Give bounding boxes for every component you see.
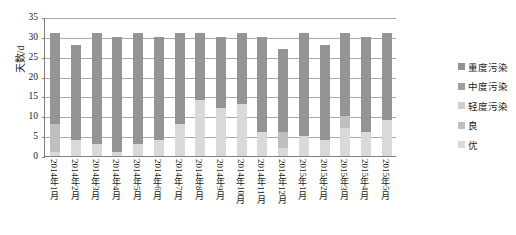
bar-column[interactable] [175, 33, 185, 156]
x-tick-label: 2014年9月 [215, 159, 224, 200]
bar-column[interactable] [299, 33, 309, 156]
bar-column[interactable] [237, 33, 247, 156]
bar-segment [257, 37, 267, 132]
x-tick-label: 2014年8月 [194, 159, 203, 200]
x-tick-label: 2014年1月 [49, 159, 58, 200]
bar-segment [71, 45, 81, 140]
x-tick-label: 2014年11月 [256, 159, 265, 204]
bar-column[interactable] [278, 49, 288, 156]
bar-column[interactable] [340, 33, 350, 156]
legend-label: 重度污染 [468, 60, 508, 74]
x-tick-label: 2014年5月 [132, 159, 141, 200]
legend-swatch-icon [458, 102, 465, 109]
bar-segment [361, 132, 371, 156]
y-tick-label: 15 [4, 92, 38, 102]
bar-column[interactable] [320, 45, 330, 156]
bar-segment [216, 108, 226, 156]
bar-segment [92, 33, 102, 144]
x-tick-label: 2014年12月 [277, 159, 286, 204]
legend-label: 中度污染 [468, 79, 508, 93]
x-tick-label: 2014年2月 [70, 159, 79, 200]
bar-segment [320, 140, 330, 156]
x-tick-label: 2014年3月 [91, 159, 100, 200]
legend-label: 优 [468, 138, 478, 152]
bar-segment [175, 124, 185, 156]
x-tick-label: 2014年10月 [236, 159, 245, 204]
x-tick-label: 2015年4月 [360, 159, 369, 200]
bar-column[interactable] [92, 33, 102, 156]
plot-area [44, 18, 396, 157]
bar-column[interactable] [216, 37, 226, 156]
x-axis-labels: 2014年1月2014年2月2014年3月2014年4月2014年5月2014年… [44, 159, 396, 215]
x-tick-label: 2015年1月 [298, 159, 307, 200]
x-tick-label: 2014年6月 [153, 159, 162, 200]
bar-segment [361, 37, 371, 132]
bar-segment [340, 33, 350, 116]
y-tick-label: 20 [4, 73, 38, 83]
x-tick-label: 2014年7月 [174, 159, 183, 200]
bar-column[interactable] [71, 45, 81, 156]
bar-column[interactable] [133, 33, 143, 156]
bar-segment [195, 33, 205, 101]
bar-segment [382, 120, 392, 156]
bar-segment [50, 33, 60, 124]
bar-segment [71, 140, 81, 156]
y-tick-label: 30 [4, 33, 38, 43]
bar-segment [278, 132, 288, 148]
bar-column[interactable] [361, 37, 371, 156]
bar-segment [299, 33, 309, 136]
legend-label: 轻度污染 [468, 99, 508, 113]
bar-segment [133, 144, 143, 156]
bar-series-group [45, 18, 396, 156]
bar-segment [278, 148, 288, 156]
tick-mark [42, 157, 45, 158]
bar-segment [216, 37, 226, 108]
bar-column[interactable] [195, 33, 205, 156]
y-tick-label: 25 [4, 53, 38, 63]
bar-column[interactable] [257, 37, 267, 156]
bar-segment [237, 33, 247, 104]
bar-segment [237, 104, 247, 156]
legend-item[interactable]: 轻度污染 [458, 96, 516, 116]
x-tick-label: 2015年5月 [381, 159, 390, 200]
legend-item[interactable]: 优 [458, 135, 516, 155]
legend-swatch-icon [458, 63, 465, 70]
bar-column[interactable] [154, 37, 164, 156]
x-tick-label: 2015年2月 [319, 159, 328, 200]
bar-column[interactable] [112, 37, 122, 156]
chart-figure: 天数/d 05101520253035 2014年1月2014年2月2014年3… [0, 0, 516, 235]
bar-segment [278, 49, 288, 132]
bar-segment [340, 116, 350, 128]
legend-swatch-icon [458, 83, 465, 90]
bar-segment [50, 124, 60, 152]
bar-column[interactable] [50, 33, 60, 156]
bar-segment [175, 33, 185, 124]
y-tick-label: 5 [4, 132, 38, 142]
bar-segment [340, 128, 350, 156]
bar-segment [320, 45, 330, 140]
bar-segment [154, 37, 164, 140]
bar-segment [112, 152, 122, 156]
bar-column[interactable] [382, 33, 392, 156]
bar-segment [154, 140, 164, 156]
legend-item[interactable]: 良 [458, 116, 516, 136]
bar-segment [133, 33, 143, 144]
chart-legend: 重度污染中度污染轻度污染良优 [458, 57, 516, 155]
legend-item[interactable]: 重度污染 [458, 57, 516, 77]
y-tick-label: 0 [4, 152, 38, 162]
bar-segment [299, 136, 309, 156]
bar-segment [112, 37, 122, 152]
legend-swatch-icon [458, 141, 465, 148]
bar-segment [382, 33, 392, 120]
y-tick-label: 10 [4, 112, 38, 122]
bar-segment [50, 152, 60, 156]
x-tick-label: 2014年4月 [111, 159, 120, 200]
legend-item[interactable]: 中度污染 [458, 77, 516, 97]
bar-segment [195, 100, 205, 156]
bar-segment [92, 144, 102, 156]
y-tick-label: 35 [4, 13, 38, 23]
bar-segment [257, 132, 267, 156]
legend-label: 良 [468, 118, 478, 132]
legend-swatch-icon [458, 122, 465, 129]
x-tick-label: 2015年3月 [339, 159, 348, 200]
